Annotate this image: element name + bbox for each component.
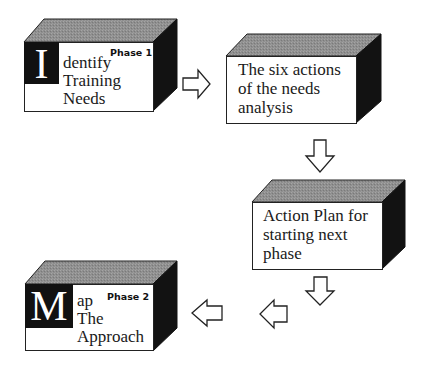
box-identify-top-face — [24, 19, 177, 42]
initial-letter-block: M — [25, 284, 73, 328]
box-six-actions-top-face — [226, 34, 381, 56]
box-map-line-3: Approach — [77, 327, 144, 347]
box-six-actions-line-3: analysis — [238, 98, 293, 118]
box-action-plan-line-1: Action Plan for — [263, 206, 368, 226]
box-map-top-face — [25, 261, 177, 284]
box-action-plan-line-3: phase — [263, 244, 302, 264]
arrow-left-icon — [260, 300, 287, 328]
phase-label: Phase 2 — [107, 291, 149, 302]
box-map-line-1: ap — [77, 291, 93, 311]
phase-label: Phase 1 — [110, 47, 152, 58]
box-action-plan-line-2: starting next — [263, 225, 348, 245]
arrow-left-icon — [192, 300, 222, 326]
arrow-down-icon — [306, 140, 334, 172]
initial-letter-block: I — [24, 42, 59, 84]
arrow-right-icon — [183, 70, 210, 98]
arrow-down-icon — [306, 277, 334, 305]
initial-letter: M — [25, 284, 73, 328]
box-action-plan-top-face — [252, 180, 405, 202]
box-six-actions-line-2: of the needs — [238, 79, 320, 99]
box-map-line-2: The — [77, 309, 103, 329]
box-identify-line-1: dentify — [63, 53, 111, 73]
initial-letter: I — [24, 43, 59, 85]
box-identify-line-2: Training — [63, 71, 121, 91]
box-identify-line-3: Needs — [63, 89, 105, 109]
box-six-actions-line-1: The six actions — [238, 60, 341, 80]
